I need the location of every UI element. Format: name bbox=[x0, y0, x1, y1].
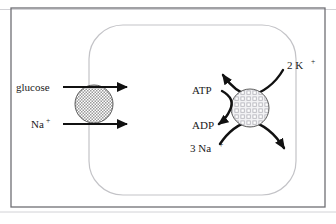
svg-text:2 K: 2 K bbox=[287, 59, 303, 71]
adp-label: ADP bbox=[192, 119, 214, 131]
pump-protein-circle bbox=[231, 89, 269, 127]
cotransporter-protein-circle bbox=[75, 85, 113, 123]
svg-text:+: + bbox=[219, 140, 223, 149]
svg-text:Na: Na bbox=[31, 118, 44, 130]
svg-text:+: + bbox=[311, 57, 315, 66]
glucose-label: glucose bbox=[16, 81, 50, 93]
membrane-transport-diagram: glucose Na + ATP ADP 2 K + 3 Na bbox=[0, 0, 336, 224]
figure-background bbox=[0, 0, 336, 224]
atp-label: ATP bbox=[192, 84, 212, 96]
svg-text:+: + bbox=[46, 116, 50, 125]
svg-text:3 Na: 3 Na bbox=[190, 142, 211, 154]
diagram-canvas: glucose Na + ATP ADP 2 K + 3 Na bbox=[0, 0, 336, 224]
